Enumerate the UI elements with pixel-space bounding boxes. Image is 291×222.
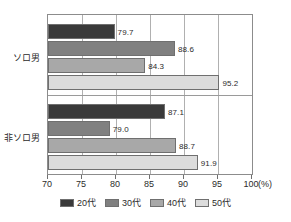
bar-nonsolo-30dai	[48, 121, 110, 136]
legend-swatch-icon	[195, 199, 209, 207]
bar-row: 79.7	[48, 24, 252, 39]
bar-value-label: 95.2	[219, 78, 238, 87]
bar-solo-20dai	[48, 24, 115, 39]
bar-nonsolo-40dai	[48, 138, 176, 153]
bar-solo-30dai	[48, 41, 175, 56]
bar-value-label: 79.7	[115, 27, 134, 36]
x-axis: 70 75 80 85 90 95 100	[47, 175, 253, 191]
bar-solo-50dai	[48, 75, 219, 90]
legend-label: 30代	[122, 196, 141, 209]
x-tick-label-100: 100	[243, 179, 258, 189]
bar-solo-40dai	[48, 58, 145, 73]
bar-row: 84.3	[48, 58, 252, 73]
x-axis-unit-label: (%)	[258, 179, 272, 189]
legend-label: 50代	[212, 196, 231, 209]
bar-value-label: 87.1	[165, 107, 184, 116]
x-tick-label-75: 75	[76, 179, 86, 189]
bar-value-label: 79.0	[110, 124, 129, 133]
legend-label: 20代	[77, 196, 96, 209]
bar-row: 91.9	[48, 155, 252, 170]
category-label-solo: ソロ男	[13, 51, 40, 64]
bar-value-label: 84.3	[145, 61, 164, 70]
bar-value-label: 88.6	[175, 44, 194, 53]
bar-value-label: 88.7	[176, 141, 195, 150]
legend-item-50dai: 50代	[195, 196, 231, 209]
bar-group-solo: 79.7 88.6 84.3 95.2	[48, 24, 252, 92]
x-tick-label-95: 95	[212, 179, 222, 189]
plot-area: 79.7 88.6 84.3 95.2 87.1 79.0	[47, 14, 253, 175]
bar-value-label: 91.9	[198, 158, 217, 167]
bar-chart: ソロ男 非ソロ男 79.7 88.6 84.3 95.2	[0, 0, 291, 222]
bar-group-nonsolo: 87.1 79.0 88.7 91.9	[48, 104, 252, 172]
legend-label: 40代	[167, 196, 186, 209]
x-tick-label-70: 70	[42, 179, 52, 189]
x-tick-label-85: 85	[144, 179, 154, 189]
legend-swatch-icon	[150, 199, 164, 207]
legend-swatch-icon	[105, 199, 119, 207]
bar-row: 88.7	[48, 138, 252, 153]
bar-row: 79.0	[48, 121, 252, 136]
bar-row: 88.6	[48, 41, 252, 56]
x-tick-label-90: 90	[178, 179, 188, 189]
x-tick-label-80: 80	[110, 179, 120, 189]
legend-item-30dai: 30代	[105, 196, 141, 209]
group-separator	[48, 95, 252, 96]
bar-nonsolo-20dai	[48, 104, 165, 119]
bar-nonsolo-50dai	[48, 155, 198, 170]
legend-item-20dai: 20代	[60, 196, 96, 209]
legend-item-40dai: 40代	[150, 196, 186, 209]
legend: 20代 30代 40代 50代	[0, 196, 291, 209]
bar-row: 95.2	[48, 75, 252, 90]
category-label-nonsolo: 非ソロ男	[4, 131, 40, 144]
legend-swatch-icon	[60, 199, 74, 207]
bar-row: 87.1	[48, 104, 252, 119]
